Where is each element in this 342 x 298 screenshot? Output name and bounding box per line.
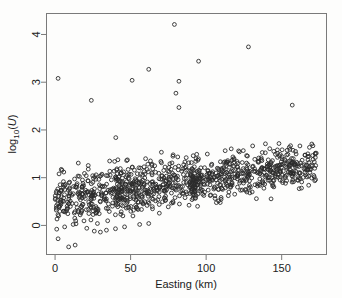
x-tick-label: 0: [52, 262, 58, 274]
y-tick-label: 1: [30, 175, 42, 181]
data-point: [264, 142, 268, 146]
data-point: [138, 176, 142, 180]
data-point: [298, 144, 302, 148]
data-point: [229, 147, 233, 151]
y-axis-ticks: 01234: [30, 31, 46, 228]
data-point: [197, 59, 201, 63]
data-point: [157, 211, 161, 215]
data-point: [162, 169, 166, 173]
data-point: [241, 149, 245, 153]
data-point: [142, 170, 146, 174]
data-point: [114, 136, 118, 140]
data-point: [119, 210, 123, 214]
data-point: [147, 67, 151, 71]
data-point: [177, 106, 181, 110]
scatter-plot-figure: 050100150 01234 Easting (km) log10(U): [0, 0, 342, 298]
data-point: [123, 225, 127, 229]
x-tick-label: 100: [197, 262, 215, 274]
data-point: [73, 243, 77, 247]
y-tick-label: 4: [30, 31, 42, 37]
data-point: [105, 228, 109, 232]
data-point: [56, 237, 60, 241]
data-point: [108, 173, 112, 177]
data-point: [166, 205, 170, 209]
data-point: [184, 156, 188, 160]
data-point: [238, 150, 242, 154]
y-axis-title-base: log: [6, 139, 18, 154]
data-point: [144, 157, 148, 161]
data-point: [87, 212, 91, 216]
data-point: [177, 79, 181, 83]
data-point: [63, 225, 67, 229]
x-axis-ticks: 050100150: [52, 255, 291, 274]
data-point: [300, 186, 304, 190]
data-point: [82, 219, 86, 223]
x-tick-label: 150: [272, 262, 290, 274]
data-point: [173, 166, 177, 170]
data-point: [251, 144, 255, 148]
data-point: [67, 245, 71, 249]
data-point: [178, 194, 182, 198]
data-point: [56, 76, 60, 80]
data-point: [89, 98, 93, 102]
data-point: [262, 186, 266, 190]
data-point: [174, 91, 178, 95]
data-point: [85, 226, 89, 230]
data-point: [226, 194, 230, 198]
data-point: [255, 197, 259, 201]
data-point: [138, 223, 142, 227]
data-point: [307, 183, 311, 187]
data-point: [142, 165, 146, 169]
data-point: [206, 188, 210, 192]
data-point: [280, 148, 284, 152]
data-point: [98, 230, 102, 234]
data-point: [247, 45, 251, 49]
x-axis-title: Easting (km): [155, 278, 217, 290]
data-point: [76, 161, 80, 165]
plot-frame-border: [47, 14, 327, 255]
data-point: [130, 78, 134, 82]
data-point: [269, 197, 273, 201]
data-point: [191, 154, 195, 158]
y-tick-label: 3: [30, 79, 42, 85]
data-point: [106, 219, 110, 223]
data-point: [74, 202, 78, 206]
data-point: [108, 159, 112, 163]
data-point: [173, 196, 177, 200]
data-points-layer: [53, 23, 318, 249]
data-point: [196, 204, 200, 208]
data-point: [146, 162, 150, 166]
data-point: [131, 214, 135, 218]
data-point: [114, 227, 118, 231]
data-point: [73, 177, 77, 181]
data-point: [109, 178, 113, 182]
data-point: [107, 202, 111, 206]
data-point: [223, 149, 227, 153]
data-point: [113, 160, 117, 164]
y-axis-title-paren-close: ): [6, 115, 18, 119]
data-point: [89, 218, 93, 222]
y-tick-label: 2: [30, 127, 42, 133]
data-point: [92, 229, 96, 233]
data-point: [233, 192, 237, 196]
data-point: [253, 157, 257, 161]
data-point: [178, 202, 182, 206]
y-tick-label: 0: [30, 222, 42, 228]
data-point: [236, 185, 240, 189]
data-point: [147, 222, 151, 226]
y-axis-title-variable: U: [6, 118, 18, 126]
data-point: [170, 191, 174, 195]
data-point: [290, 103, 294, 107]
plot-canvas: 050100150 01234 Easting (km) log10(U): [0, 0, 342, 298]
data-point: [96, 222, 100, 226]
data-point: [227, 190, 231, 194]
data-point: [272, 149, 276, 153]
data-point: [187, 203, 191, 207]
data-point: [268, 147, 272, 151]
data-point: [55, 227, 59, 231]
data-point: [157, 203, 161, 207]
data-point: [114, 213, 118, 217]
data-point: [57, 172, 61, 176]
data-point: [277, 142, 281, 146]
data-point: [258, 177, 262, 181]
